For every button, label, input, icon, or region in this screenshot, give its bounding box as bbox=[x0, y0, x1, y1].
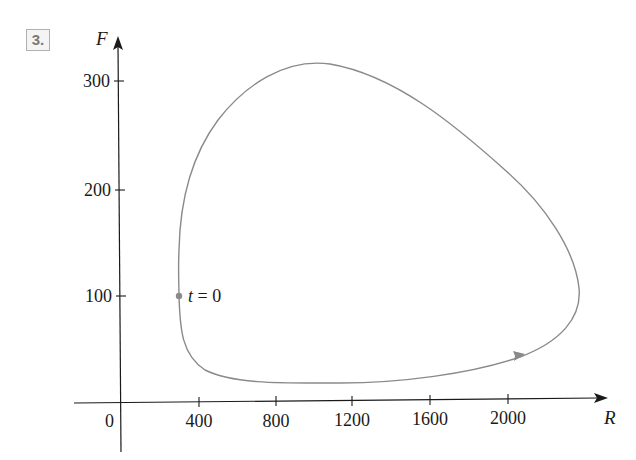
t0-point-marker bbox=[176, 293, 182, 299]
trajectory-curve bbox=[179, 63, 580, 383]
y-axis-label: F bbox=[96, 29, 108, 48]
origin-label: 0 bbox=[105, 412, 114, 430]
x-tick-label-400: 400 bbox=[169, 412, 229, 430]
y-axis-line bbox=[118, 44, 121, 452]
x-tick-label-800: 800 bbox=[246, 412, 306, 430]
t0-equals-zero: = 0 bbox=[193, 286, 221, 306]
chart: 3. F R 0 300 200 100 bbox=[0, 0, 636, 460]
x-axis-line bbox=[74, 398, 598, 403]
x-tick-label-2000: 2000 bbox=[478, 409, 538, 427]
t0-annotation: t = 0 bbox=[188, 287, 221, 305]
x-tick-label-1200: 1200 bbox=[322, 411, 382, 429]
y-tick-label-200: 200 bbox=[63, 181, 111, 199]
plot-area bbox=[0, 0, 636, 460]
y-tick-label-300: 300 bbox=[62, 72, 110, 90]
x-tick-label-1600: 1600 bbox=[400, 410, 460, 428]
x-axis-label: R bbox=[604, 408, 616, 427]
y-tick-label-100: 100 bbox=[64, 287, 112, 305]
